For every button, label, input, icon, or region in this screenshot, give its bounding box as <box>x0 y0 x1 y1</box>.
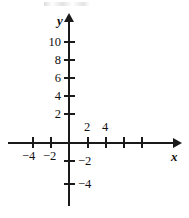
x-tick-label-minus-4: −4 <box>22 150 35 163</box>
x-tick-4 <box>105 137 107 148</box>
x-tick-6 <box>123 137 125 148</box>
y-tick-8 <box>64 59 75 61</box>
x-tick-label-2: 2 <box>84 121 90 134</box>
x-tick-8 <box>141 137 143 148</box>
y-tick-label-minus-4: −4 <box>78 178 91 191</box>
y-tick-10 <box>64 41 75 43</box>
scan-artifact <box>44 2 90 6</box>
y-axis-label: y <box>57 14 63 27</box>
y-tick-6 <box>64 77 75 79</box>
x-tick-label-minus-2: −2 <box>43 150 56 163</box>
y-axis-arrow-icon <box>64 13 74 22</box>
y-tick-label-10: 10 <box>28 36 61 49</box>
x-tick-minus-2 <box>50 137 52 148</box>
x-axis-arrow-icon <box>173 138 182 148</box>
x-tick-minus-4 <box>32 137 34 148</box>
y-tick-label-2: 2 <box>28 108 61 121</box>
y-tick-minus-4 <box>64 183 75 185</box>
coordinate-plane-figure: 10 8 6 4 2 −2 −4 −4 −2 2 4 y x <box>0 0 189 218</box>
x-tick-2 <box>87 137 89 148</box>
y-tick-minus-2 <box>64 160 75 162</box>
x-tick-label-4: 4 <box>102 121 108 134</box>
y-tick-label-6: 6 <box>28 72 61 85</box>
y-tick-label-8: 8 <box>28 54 61 67</box>
y-tick-2 <box>64 113 75 115</box>
y-tick-label-4: 4 <box>28 90 61 103</box>
y-tick-4 <box>64 95 75 97</box>
y-tick-label-minus-2: −2 <box>78 155 91 168</box>
x-axis-label: x <box>171 150 178 163</box>
